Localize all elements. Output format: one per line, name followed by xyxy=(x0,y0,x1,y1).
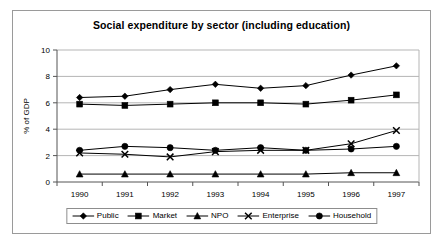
data-point-square xyxy=(393,92,399,98)
legend-marker-wrap xyxy=(308,211,330,221)
data-point-square xyxy=(167,101,173,107)
legend-marker-wrap xyxy=(72,211,94,221)
legend-item-public[interactable]: Public xyxy=(72,211,119,221)
legend-marker-diamond xyxy=(72,211,94,221)
data-point-diamond xyxy=(122,93,128,99)
series-line xyxy=(80,66,397,98)
x-axis-tick-label: 1991 xyxy=(116,190,134,199)
series-public xyxy=(76,63,399,101)
y-axis-tick-label: 0 xyxy=(46,178,51,187)
legend-marker-wrap xyxy=(128,211,150,221)
legend-marker-wrap xyxy=(186,211,208,221)
legend-marker-wrap xyxy=(237,211,259,221)
x-axis-tick-label: 1990 xyxy=(71,190,89,199)
data-point-circle xyxy=(348,146,354,152)
x-axis-tick-label: 1992 xyxy=(161,190,179,199)
series-npo xyxy=(76,169,400,177)
data-point-circle xyxy=(167,145,173,151)
data-point-circle xyxy=(258,145,264,151)
legend-item-label: Market xyxy=(152,212,177,220)
data-point-square xyxy=(303,101,309,107)
line-chart-plot: 0246810% of GDP1990199119921993199419951… xyxy=(13,11,432,235)
x-axis-tick-label: 1997 xyxy=(387,190,405,199)
x-axis-tick-label: 1993 xyxy=(206,190,224,199)
chart-legend: PublicMarketNPOEnterpriseHousehold xyxy=(66,208,377,224)
data-point-diamond xyxy=(303,82,309,88)
data-point-diamond xyxy=(76,94,82,100)
data-point-cross xyxy=(393,127,400,134)
legend-item-label: NPO xyxy=(210,212,228,220)
data-point-diamond xyxy=(167,86,173,92)
data-point-square xyxy=(122,103,128,109)
data-point-square xyxy=(136,213,142,219)
data-point-diamond xyxy=(257,85,263,91)
legend-item-household[interactable]: Household xyxy=(308,211,371,221)
data-point-square xyxy=(212,100,218,106)
x-axis-tick-label: 1994 xyxy=(252,190,270,199)
x-axis-tick-label: 1996 xyxy=(342,190,360,199)
data-point-square xyxy=(258,100,264,106)
y-axis-title: % of GDP xyxy=(22,98,31,134)
data-point-circle xyxy=(212,147,218,153)
y-axis-tick-label: 6 xyxy=(46,99,51,108)
legend-item-label: Public xyxy=(96,212,119,220)
y-axis-tick-label: 4 xyxy=(46,125,51,134)
legend-item-market[interactable]: Market xyxy=(128,211,177,221)
data-point-circle xyxy=(316,213,322,219)
data-point-diamond xyxy=(348,72,354,78)
x-axis-tick-label: 1995 xyxy=(297,190,315,199)
legend-marker-square xyxy=(128,211,150,221)
data-point-circle xyxy=(393,143,399,149)
data-point-diamond xyxy=(393,63,399,69)
legend-item-enterprise[interactable]: Enterprise xyxy=(237,211,298,221)
chart-container: Social expenditure by sector (including … xyxy=(12,10,431,234)
legend-item-npo[interactable]: NPO xyxy=(186,211,228,221)
legend-item-label: Enterprise xyxy=(261,212,298,220)
y-axis-tick-label: 8 xyxy=(46,72,51,81)
legend-item-label: Household xyxy=(332,212,371,220)
data-point-square xyxy=(77,101,83,107)
data-point-diamond xyxy=(212,81,218,87)
y-axis-tick-label: 10 xyxy=(41,46,50,55)
data-point-square xyxy=(348,97,354,103)
data-point-circle xyxy=(122,143,128,149)
data-point-diamond xyxy=(80,213,86,219)
data-point-circle xyxy=(77,147,83,153)
y-axis-tick-label: 2 xyxy=(46,152,51,161)
legend-marker-cross xyxy=(237,211,259,221)
legend-marker-triangle xyxy=(186,211,208,221)
data-point-circle xyxy=(303,147,309,153)
legend-marker-circle xyxy=(308,211,330,221)
